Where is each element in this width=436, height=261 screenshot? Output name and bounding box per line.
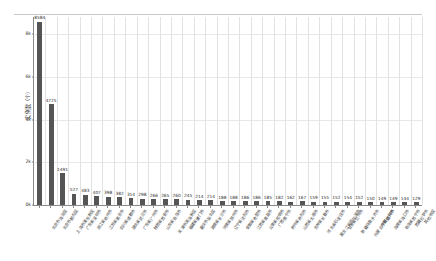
bar-rect[interactable]	[277, 201, 282, 205]
bar-item[interactable]: 186	[254, 196, 259, 205]
x-axis-tick-mark	[415, 206, 416, 208]
bar-value-label: 266	[150, 194, 158, 198]
bar-item[interactable]: 186	[243, 196, 248, 205]
bar-item[interactable]: 149	[391, 197, 396, 205]
bar-rect[interactable]	[117, 197, 122, 205]
bar-value-label: 182	[275, 196, 283, 200]
x-axis-tick-mark	[358, 206, 359, 208]
bar-item[interactable]: 162	[288, 196, 293, 205]
bar-rect[interactable]	[72, 194, 77, 205]
x-axis-tick-mark	[267, 206, 268, 208]
bar-value-label: 159	[309, 196, 317, 200]
x-axis-tick-mark	[370, 206, 371, 208]
bar-rect[interactable]	[402, 202, 407, 205]
x-axis-tick-label: 宁夏银川市	[380, 209, 395, 228]
bar-item[interactable]: 214	[197, 195, 202, 205]
x-axis-tick-mark	[130, 206, 131, 208]
bar-item[interactable]: 159	[311, 196, 316, 205]
bar-value-label: 260	[173, 194, 181, 198]
bar-rect[interactable]	[174, 199, 179, 205]
bar-rect[interactable]	[106, 197, 111, 206]
bar-chart-figure: 实例数（个） 0k2k4k6k8k 8584472514915274834073…	[0, 0, 436, 261]
bar-item[interactable]: 188	[231, 196, 236, 205]
bar-item[interactable]: 266	[151, 194, 156, 205]
bar-value-label: 398	[104, 191, 112, 195]
bar-value-label: 188	[218, 196, 226, 200]
x-axis-tick-mark	[198, 206, 199, 208]
bar-rect[interactable]	[266, 201, 271, 205]
bar-value-label: 188	[230, 196, 238, 200]
bar-value-label: 155	[321, 196, 329, 200]
bar-rect[interactable]	[197, 200, 202, 205]
bar-rect[interactable]	[163, 199, 168, 205]
bar-rect[interactable]	[345, 202, 350, 205]
bar-item[interactable]: 152	[357, 196, 362, 205]
bar-rect[interactable]	[129, 198, 134, 205]
x-axis-tick-mark	[187, 206, 188, 208]
bar-value-label: 1491	[57, 168, 68, 172]
bar-rect[interactable]	[288, 202, 293, 205]
bar-rect[interactable]	[414, 202, 419, 205]
bar-item[interactable]: 245	[186, 194, 191, 205]
bar-item[interactable]: 382	[117, 192, 122, 205]
bar-rect[interactable]	[300, 201, 305, 205]
bar-rect[interactable]	[83, 195, 88, 205]
x-axis-tick-mark	[62, 206, 63, 208]
bar-rect[interactable]	[49, 104, 54, 205]
bar-item[interactable]: 4725	[49, 99, 54, 205]
bar-item[interactable]: 314	[129, 193, 134, 205]
bar-item[interactable]: 154	[345, 196, 350, 205]
bar-rect[interactable]	[140, 199, 145, 205]
bar-item[interactable]: 398	[106, 191, 111, 205]
x-axis-tick-mark	[301, 206, 302, 208]
bar-item[interactable]: 527	[72, 188, 77, 205]
bar-rect[interactable]	[151, 199, 156, 205]
bar-rect[interactable]	[186, 200, 191, 205]
bar-rect[interactable]	[208, 200, 213, 205]
bar-item[interactable]: 182	[277, 196, 282, 205]
bar-item[interactable]: 260	[174, 194, 179, 205]
bar-rect[interactable]	[94, 196, 99, 205]
bar-value-label: 162	[287, 196, 295, 200]
bar-item[interactable]: 155	[323, 196, 328, 205]
bar-rect[interactable]	[368, 202, 373, 205]
x-axis-labels: 北京市海淀区北京市朝阳区上海市浦东新区广东省深圳市浙江省杭州市江苏省南京市四川省…	[33, 207, 422, 261]
bar-rect[interactable]	[380, 202, 385, 205]
bar-item[interactable]: 265	[163, 194, 168, 205]
x-axis-tick-mark	[278, 206, 279, 208]
bar-rect[interactable]	[37, 22, 42, 205]
x-axis-tick-mark	[324, 206, 325, 208]
bar-item[interactable]: 150	[368, 197, 373, 206]
bar-item[interactable]: 298	[140, 193, 145, 205]
bar-item[interactable]: 483	[83, 189, 88, 205]
bars-layer: 8584472514915274834073983823142982662652…	[34, 17, 422, 205]
bar-item[interactable]: 407	[94, 191, 99, 205]
bar-rect[interactable]	[311, 202, 316, 205]
bar-item[interactable]: 152	[334, 196, 339, 205]
bar-rect[interactable]	[391, 202, 396, 205]
bar-item[interactable]: 129	[414, 197, 419, 205]
x-axis-tick-mark	[176, 206, 177, 208]
bar-value-label: 214	[207, 195, 215, 199]
bar-item[interactable]: 149	[380, 197, 385, 205]
bar-item[interactable]: 188	[220, 196, 225, 205]
bar-rect[interactable]	[334, 202, 339, 205]
x-axis-tick-mark	[73, 206, 74, 208]
bar-rect[interactable]	[231, 201, 236, 205]
bar-item[interactable]: 167	[300, 196, 305, 205]
bar-rect[interactable]	[60, 173, 65, 205]
bar-value-label: 245	[184, 194, 192, 198]
bar-rect[interactable]	[243, 201, 248, 205]
bar-rect[interactable]	[357, 202, 362, 205]
bar-item[interactable]: 8584	[37, 16, 42, 205]
bar-item[interactable]: 214	[208, 195, 213, 205]
bar-item[interactable]: 144	[402, 197, 407, 205]
bar-rect[interactable]	[323, 202, 328, 205]
bar-value-label: 149	[378, 197, 386, 201]
bar-item[interactable]: 185	[266, 196, 271, 205]
x-axis-tick-mark	[164, 206, 165, 208]
bar-rect[interactable]	[254, 201, 259, 205]
bar-rect[interactable]	[220, 201, 225, 205]
bar-item[interactable]: 1491	[60, 168, 65, 205]
bar-value-label: 4725	[46, 99, 57, 103]
